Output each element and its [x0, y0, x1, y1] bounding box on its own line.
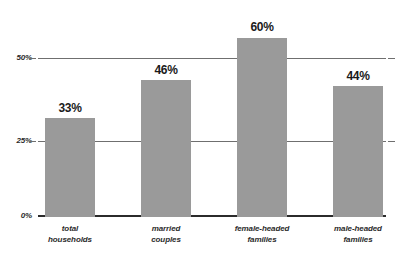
bar-married-couples[interactable] — [141, 80, 191, 217]
x-axis-label-line2: households — [18, 234, 122, 245]
bar-female-headed-families[interactable] — [237, 38, 287, 217]
value-label-male-headed-families: 44% — [333, 70, 383, 82]
x-axis-label-line2: families — [210, 234, 314, 245]
x-axis-label-female-headed-families: female-headed families — [210, 223, 314, 245]
bar-chart: 50% 25% 0% 33% 46% 60% 44% total househo… — [0, 0, 404, 261]
y-axis-label-0: 0% — [21, 212, 32, 220]
value-label-female-headed-families: 60% — [237, 21, 287, 33]
tick-mark-left-50 — [29, 58, 36, 59]
tick-mark-right-25 — [388, 141, 395, 142]
x-axis-label-line1: total — [62, 224, 78, 233]
x-axis-label-male-headed-families: male-headed families — [306, 223, 404, 245]
tick-mark-left-25 — [29, 141, 36, 142]
value-label-total-households: 33% — [45, 102, 95, 114]
bar-male-headed-families[interactable] — [333, 86, 383, 217]
x-axis-label-line2: families — [306, 234, 404, 245]
x-axis-label-total-households: total households — [18, 223, 122, 245]
x-axis-label-line1: female-headed — [235, 224, 290, 233]
x-axis-label-line2: couples — [114, 234, 218, 245]
tick-mark-right-50 — [388, 58, 395, 59]
plot-area: 33% 46% 60% 44% — [38, 8, 386, 217]
gridline-50 — [38, 58, 386, 59]
x-axis-label-married-couples: married couples — [114, 223, 218, 245]
bar-total-households[interactable] — [45, 118, 95, 217]
x-axis-label-line1: married — [152, 224, 181, 233]
x-axis-label-line1: male-headed — [334, 224, 382, 233]
value-label-married-couples: 46% — [141, 64, 191, 76]
